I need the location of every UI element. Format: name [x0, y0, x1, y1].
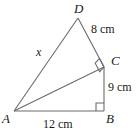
segment-ac: [14, 67, 104, 111]
vertex-label-b: B: [106, 112, 114, 125]
right-angle-at-C: [95, 58, 104, 71]
right-angle-at-B: [96, 103, 104, 111]
side-label-bc: 9 cm: [108, 81, 132, 93]
side-label-cd: 8 cm: [91, 23, 115, 35]
vertex-label-c: C: [111, 54, 120, 67]
segment-ad: [14, 18, 78, 111]
vertex-label-a: A: [2, 112, 10, 125]
side-label-ad: x: [36, 46, 41, 58]
vertex-label-d: D: [74, 2, 83, 15]
geometry-figure: A B C D x 8 cm 9 cm 12 cm: [0, 0, 139, 133]
side-label-ab: 12 cm: [43, 118, 73, 130]
